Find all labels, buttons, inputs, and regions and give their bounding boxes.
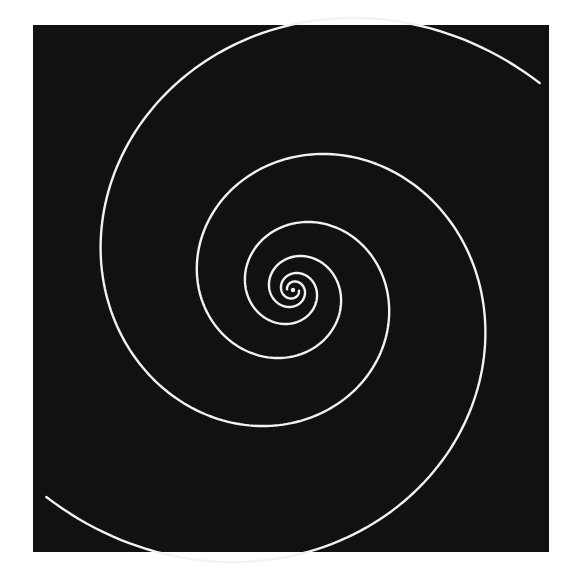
spiral-center-dot — [291, 288, 295, 292]
spiral-image — [0, 0, 571, 577]
black-square-background — [33, 25, 549, 552]
